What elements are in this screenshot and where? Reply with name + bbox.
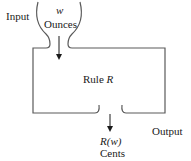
input-arrow-icon — [56, 36, 62, 60]
rule-name: R — [107, 73, 114, 85]
rule-label: Rule R — [83, 73, 113, 85]
input-variable: w — [56, 4, 63, 16]
output-expression: R(w) — [100, 135, 121, 147]
output-unit: Cents — [100, 147, 125, 159]
rule-prefix: Rule — [83, 73, 107, 85]
output-label: Output — [152, 125, 183, 137]
input-unit: Ounces — [44, 18, 77, 30]
input-label: Input — [6, 10, 29, 22]
output-arrow-icon — [107, 114, 113, 132]
